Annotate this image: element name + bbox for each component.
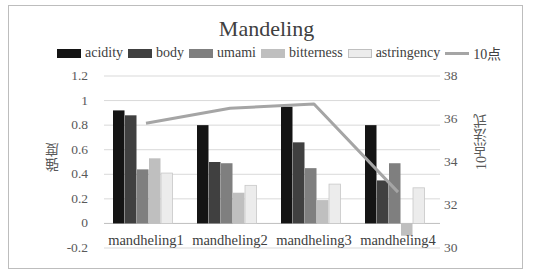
bar-bitterness (149, 158, 161, 223)
y-axis-left-title: 強度 (44, 142, 64, 172)
bar-bitterness (233, 193, 245, 224)
bar-astringency (161, 173, 173, 223)
bar-astringency (329, 184, 341, 223)
y-axis-right-title: 10点法式 (472, 114, 492, 170)
bar-umami (221, 163, 233, 223)
y-tick-label: 0.6 (71, 143, 88, 157)
y-tick-label: 0 (81, 216, 88, 230)
x-category-label: mandheling2 (188, 232, 272, 249)
y2-tick-label: 34 (444, 155, 458, 169)
y2-tick-label: 36 (444, 112, 458, 126)
y-tick-label: 0.8 (71, 118, 88, 132)
bar-acidity (365, 125, 377, 223)
bar-body (377, 180, 389, 223)
y2-tick-label: 38 (444, 69, 458, 83)
bar-astringency (245, 185, 257, 223)
bar-acidity (113, 110, 125, 223)
y-tick-label: 0.4 (71, 167, 88, 181)
bar-bitterness (317, 200, 329, 223)
bar-acidity (197, 125, 209, 223)
bar-acidity (281, 107, 293, 224)
bar-body (125, 115, 137, 223)
x-category-label: mandheling1 (104, 232, 188, 249)
line-series (146, 104, 398, 192)
x-category-label: mandheling4 (356, 232, 440, 249)
bar-body (209, 162, 221, 223)
bar-umami (137, 169, 149, 223)
y-tick-label: 0.2 (71, 192, 88, 206)
bar-body (293, 142, 305, 223)
y-tick-label: -0.2 (67, 241, 88, 255)
bar-astringency (413, 188, 425, 224)
bar-umami (305, 168, 317, 223)
y2-tick-label: 32 (444, 198, 458, 212)
y2-tick-label: 30 (444, 241, 458, 255)
y-tick-label: 1.2 (71, 69, 88, 83)
line-10pt (146, 104, 398, 192)
bar-umami (389, 163, 401, 223)
x-category-label: mandheling3 (272, 232, 356, 249)
y-tick-label: 1 (81, 94, 88, 108)
